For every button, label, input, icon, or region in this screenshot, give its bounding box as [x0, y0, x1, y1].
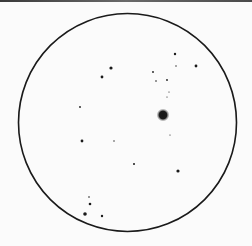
eyepiece-sketch: [0, 0, 252, 246]
star: [101, 215, 103, 217]
star: [88, 196, 90, 198]
star: [166, 96, 167, 97]
star: [83, 212, 87, 216]
star: [169, 134, 170, 135]
star: [133, 163, 135, 165]
star: [109, 66, 112, 69]
star: [174, 53, 176, 55]
star: [79, 106, 81, 108]
star: [81, 140, 84, 143]
star: [195, 65, 198, 68]
star: [101, 76, 104, 79]
field-of-view-circle: [19, 14, 237, 232]
bright-star: [157, 109, 170, 122]
star: [176, 169, 179, 172]
star: [113, 140, 114, 141]
star: [89, 203, 92, 206]
star: [155, 80, 157, 82]
star: [175, 65, 176, 66]
star: [152, 71, 154, 73]
star: [168, 91, 169, 92]
star-field: [79, 53, 197, 217]
star: [166, 79, 168, 81]
